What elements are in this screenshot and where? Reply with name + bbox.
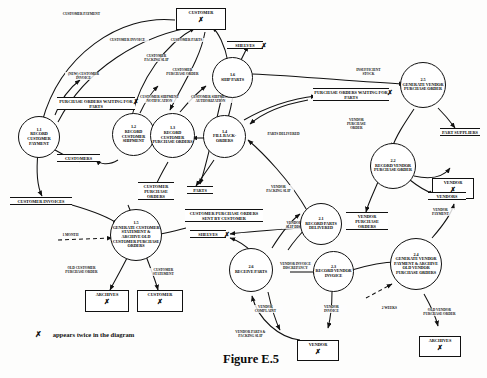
entity-customer-top[interactable]: CUSTOMER ✗ <box>176 8 226 30</box>
flow-label-vendor-purchase-order: VENDOR PURCHASE ORDER <box>340 118 373 130</box>
flow-label-parts-delivered: PARTS DELIVERED <box>266 132 301 136</box>
process-label: FILL BACK-ORDERS <box>204 134 245 143</box>
duplicate-mark-icon: ✗ <box>133 98 139 105</box>
flow-label-vendor-complaint: VENDOR COMPLAINT <box>248 305 283 313</box>
flow-label-customer-purchase-order: CUSTOMER PURCHASE ORDER <box>165 68 200 76</box>
store-label: PARTS <box>193 188 207 193</box>
duplicate-mark-icon: ✗ <box>177 17 225 24</box>
flow-label-old-customer-purchase-order: OLD CUSTOMER PURCHASE ORDER <box>63 266 100 274</box>
entity-label: ARCHIVES <box>429 338 452 343</box>
flow-label-one-month: 1 MONTH <box>57 233 84 237</box>
legend: ✗ appears twice in the diagram <box>35 330 134 339</box>
process-2-5-generate-vendor-purchase-order[interactable]: 2.5 GENERATE VENDOR PURCHASE ORDER <box>400 62 446 108</box>
store-po-waiting-left[interactable]: PURCHASE ORDERS WAITING FOR PARTS ✗ <box>57 97 135 110</box>
entity-archives-left[interactable]: ARCHIVES ✗ <box>85 290 129 312</box>
store-parts[interactable]: PARTS <box>187 186 213 194</box>
flow-label-customer-payment: CUSTOMER PAYMENT <box>60 12 103 16</box>
duplicate-mark-icon: ✗ <box>420 345 460 352</box>
store-label: VENDORS <box>436 194 457 199</box>
process-1-3-record-customer-purchase-orders[interactable]: 1.3 RECORD CUSTOMER PURCHASE ORDERS <box>150 113 195 158</box>
entity-label: CUSTOMER <box>148 292 173 297</box>
flow-label-old-vendor-purchase-order: OLD VENDOR PURCHASE ORDER <box>422 308 457 316</box>
flow-label-insufficient-stock: INSUFFICIENT STOCK <box>350 68 387 76</box>
legend-text: appears twice in the diagram <box>53 331 135 338</box>
process-1-4-fill-back-orders[interactable]: 1.4 FILL BACK-ORDERS <box>203 115 246 158</box>
flow-label-vendor-invoice-discrepancy: VENDOR INVOICE DISCREPANCY <box>276 262 315 270</box>
store-label: PART SUPPLIERS <box>442 130 478 135</box>
store-label: CUSTOMERS <box>65 156 92 161</box>
store-label: CUSTOMER INVOICES <box>18 199 65 204</box>
process-label: RECORD CUSTOMER PURCHASE ORDERS <box>151 131 194 145</box>
store-label: PURCHASE ORDERS WAITING FOR PARTS <box>59 99 132 109</box>
store-label: SHELVES <box>198 232 217 237</box>
process-2-6-receive-parts[interactable]: 2.6 RECEIVE PARTS <box>229 248 273 292</box>
store-part-suppliers[interactable]: PART SUPPLIERS <box>440 128 480 136</box>
store-po-waiting-right[interactable]: PURCHASE ORDERS WAITING FOR PARTS ✗ <box>313 88 389 101</box>
duplicate-mark-icon: ✗ <box>298 349 338 356</box>
process-label: GENERATE VENDOR PURCHASE ORDER <box>401 83 445 92</box>
process-1-1-record-customer-payment[interactable]: 1.1 RECORD CUSTOMER PAYMENT <box>18 116 60 158</box>
duplicate-mark-icon: ✗ <box>261 42 267 49</box>
process-2-3-record-vendor-invoice[interactable]: 2.3 RECORD VENDOR INVOICE <box>313 251 354 292</box>
duplicate-mark-icon: ✗ <box>387 89 393 96</box>
duplicate-mark-icon: ✗ <box>138 299 182 306</box>
process-1-2-record-customer-shipment[interactable]: 1.2 RECORD CUSTOMER SHIPMENT <box>112 113 155 156</box>
flow-label-vendor-parts-packing-slip: VENDOR PARTS & PACKING SLIP <box>228 330 273 338</box>
process-label: RECORD VENDOR PURCHASE ORDER <box>371 164 415 173</box>
flow-label-customer-invoice: CUSTOMER INVOICE <box>106 38 149 42</box>
flow-label-customer-parts: CUSTOMER PARTS <box>168 38 205 42</box>
entity-vendor-bottom[interactable]: VENDOR ✗ <box>297 340 339 361</box>
process-label: GENERATE CUSTOMER STATEMENT & ARCHIVE OL… <box>111 226 161 249</box>
store-label: VENDOR PURCHASE ORDERS <box>355 214 379 229</box>
duplicate-mark-icon: ✗ <box>86 299 128 306</box>
store-shelves-top[interactable]: SHELVES ✗ <box>227 41 263 49</box>
flow-label-vendor-payment: VENDOR PAYMENT <box>424 208 457 216</box>
store-vendor-purchase-orders[interactable]: VENDOR PURCHASE ORDERS <box>346 212 388 230</box>
store-cpo-sent-by-customer[interactable]: CUSTOMER PURCHASE ORDERS SENT BY CUSTOME… <box>185 209 263 222</box>
duplicate-mark-icon: ✗ <box>224 231 230 238</box>
flow-label-vendor-invoice: VENDOR INVOICE <box>316 305 347 313</box>
flow-label-customer-statement: CUSTOMER STATEMENT <box>144 268 183 276</box>
flow-label-vendor-packing-slip: VENDOR PACKING SLIP <box>263 185 294 193</box>
flow-label-two-weeks: 2 WEEKS <box>376 306 403 310</box>
process-label: RECORD PARTS DELIVERED <box>301 222 341 231</box>
figure-page: CUSTOMER ✗ ARCHIVES ✗ CUSTOMER ✗ VENDOR … <box>0 0 487 378</box>
flow-label-new-customer-invoice: (NEW) CUSTOMER INVOICE <box>65 72 102 80</box>
entity-customer-bottom-left[interactable]: CUSTOMER ✗ <box>137 290 183 312</box>
store-customer-invoices[interactable]: CUSTOMER INVOICES <box>10 197 72 205</box>
store-label: SHELVES <box>235 43 254 48</box>
legend-x-icon: ✗ <box>35 330 51 339</box>
process-label: RECEIVE PARTS <box>234 270 268 275</box>
store-customer-purchase-orders[interactable]: CUSTOMER PURCHASE ORDERS <box>138 182 174 200</box>
process-2-4-generate-vendor-payment[interactable]: 2.4 GENERATE VENDOR PAYMENT & ARCHIVE OL… <box>390 238 442 290</box>
entity-label: VENDOR <box>309 342 328 347</box>
process-label: RECORD CUSTOMER PAYMENT <box>19 132 59 146</box>
entity-archives-right[interactable]: ARCHIVES ✗ <box>419 336 461 357</box>
two-weeks-trigger <box>366 284 392 298</box>
process-label: RECORD CUSTOMER SHIPMENT <box>113 130 154 144</box>
store-label: PURCHASE ORDERS WAITING FOR PARTS <box>314 90 387 100</box>
store-label: CUSTOMER PURCHASE ORDERS <box>144 184 169 199</box>
process-1-5-generate-customer-statement[interactable]: 1.5 GENERATE CUSTOMER STATEMENT & ARCHIV… <box>110 209 162 261</box>
flow-connectors <box>0 0 487 378</box>
entity-label: VENDOR <box>444 180 463 185</box>
store-label: CUSTOMER PURCHASE ORDERS SENT BY CUSTOME… <box>190 211 258 221</box>
process-2-2-record-vendor-purchase-order[interactable]: 2.2 RECORD VENDOR PURCHASE ORDER <box>370 143 416 189</box>
figure-caption: Figure E.5 <box>223 352 279 367</box>
one-month-trigger <box>58 238 112 240</box>
process-label: GENERATE VENDOR PAYMENT & ARCHIVE OLD VE… <box>391 257 441 275</box>
process-2-1-record-parts-delivered[interactable]: 2.1 RECORD PARTS DELIVERED <box>300 203 342 245</box>
flow-label-customer-shipment-notification: CUSTOMER SHIPMENT NOTIFICATION <box>139 95 180 103</box>
entity-label: CUSTOMER <box>189 10 214 15</box>
process-label: RECORD VENDOR INVOICE <box>314 269 353 278</box>
entity-label: ARCHIVES <box>96 292 119 297</box>
flow-label-customer-packing-slip: CUSTOMER PACKING SLIP <box>140 54 173 62</box>
store-shelves-mid[interactable]: SHELVES ✗ <box>190 230 226 238</box>
store-customers[interactable]: CUSTOMERS <box>57 154 100 162</box>
process-label: SHIP PARTS <box>220 78 245 83</box>
store-vendors[interactable]: VENDORS <box>428 192 466 200</box>
process-1-6-ship-parts[interactable]: 1.6 SHIP PARTS <box>212 57 253 98</box>
